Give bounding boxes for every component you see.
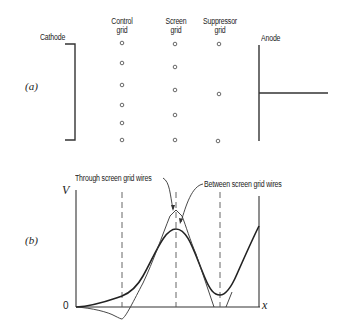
grid-plane-dashed-lines	[122, 192, 220, 307]
through-arrowhead	[171, 205, 175, 211]
between-wires-annotation: Between screen grid wires	[204, 180, 282, 189]
part-b-label: (b)	[25, 234, 38, 246]
screen-grid-wires	[173, 42, 177, 142]
suppressor-grid-wires	[216, 42, 221, 143]
diagram-canvas	[0, 0, 337, 331]
through-wires-annotation: Through screen grid wires	[75, 174, 151, 183]
control-grid-wires	[120, 41, 124, 142]
curve-between-wires	[76, 226, 259, 307]
between-annotation-arrow	[181, 184, 203, 222]
y-axis-label: V	[62, 183, 69, 198]
anode-shape	[259, 45, 328, 141]
origin-label: 0	[63, 300, 69, 311]
axes	[76, 190, 260, 307]
x-axis-label: x	[262, 298, 267, 313]
between-arrowhead	[179, 218, 183, 224]
cathode-shape	[65, 44, 75, 140]
through-annotation-arrow	[163, 178, 173, 209]
